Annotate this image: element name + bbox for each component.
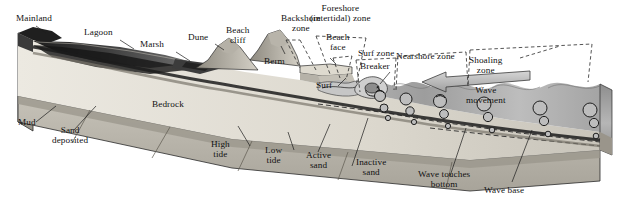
coastal-block-diagram: Mainland Lagoon Marsh Dune Beach cliff B… <box>0 0 619 207</box>
label-wave-base: Wave base <box>484 186 524 196</box>
label-nearshore-zone: Nearshore zone <box>396 52 455 62</box>
label-inactive-sand: Inactive sand <box>356 158 386 177</box>
label-surf-zone: Surf zone <box>358 49 394 59</box>
label-mainland: Mainland <box>16 14 52 24</box>
label-mud: Mud <box>18 118 36 128</box>
label-bedrock: Bedrock <box>152 100 184 110</box>
label-wave-touches-bottom: Wave touches bottom <box>418 170 470 189</box>
label-lagoon: Lagoon <box>84 28 113 38</box>
label-low-tide: Low tide <box>265 146 282 165</box>
label-dune: Dune <box>188 33 208 43</box>
label-beach-face: Beach face <box>326 33 349 52</box>
label-beach-cliff: Beach cliff <box>226 26 249 45</box>
label-sand-deposited: Sand deposited <box>52 126 88 145</box>
label-berm: Berm <box>264 57 285 67</box>
label-high-tide: High tide <box>211 140 230 159</box>
label-shoaling-zone: Shoaling zone <box>469 56 502 75</box>
label-breaker: Breaker <box>360 62 390 72</box>
label-wave-movement: Wave movement <box>466 86 506 105</box>
label-active-sand: Active sand <box>306 151 331 170</box>
label-foreshore-zone: Foreshore (intertidal) zone <box>310 4 371 23</box>
label-marsh: Marsh <box>140 40 164 50</box>
label-surf: Surf <box>316 81 332 91</box>
